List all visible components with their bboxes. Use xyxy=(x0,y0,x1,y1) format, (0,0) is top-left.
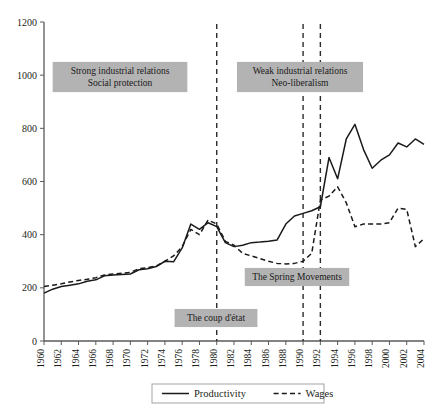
legend-label-productivity: Productivity xyxy=(194,388,247,399)
y-tick-label: 0 xyxy=(32,336,37,347)
line-chart: 0200400600800100012001960196219641966196… xyxy=(0,0,435,414)
y-tick-label: 400 xyxy=(22,229,37,240)
x-tick-label: 1986 xyxy=(261,349,271,368)
x-tick-label: 1970 xyxy=(122,349,132,368)
series-line-productivity xyxy=(44,124,424,293)
annotation-line: Strong industrial relations xyxy=(71,66,170,76)
x-tick-label: 1990 xyxy=(295,349,305,368)
x-tick-label: 1978 xyxy=(191,349,201,368)
x-tick-label: 1984 xyxy=(243,349,253,368)
annotation-coup: The coup d'état xyxy=(175,309,258,327)
y-tick-label: 200 xyxy=(22,282,37,293)
annotation-spring: The Spring Movements xyxy=(245,268,349,286)
annotation-line: Weak industrial relations xyxy=(253,66,348,76)
x-tick-label: 1964 xyxy=(71,349,81,368)
x-tick-label: 1960 xyxy=(36,349,46,368)
annotation-line: The Spring Movements xyxy=(252,272,342,282)
annotation-line: The coup d'état xyxy=(187,313,246,323)
x-tick-label: 1968 xyxy=(105,349,115,368)
x-tick-label: 1962 xyxy=(53,349,63,368)
y-tick-label: 600 xyxy=(22,176,37,187)
annotation-line: Social protection xyxy=(88,78,153,88)
chart-container: 0200400600800100012001960196219641966196… xyxy=(0,0,435,414)
y-tick-label: 800 xyxy=(22,123,37,134)
annotation-right-era: Weak industrial relationsNeo-liberalism xyxy=(237,62,363,92)
x-tick-label: 1980 xyxy=(209,349,219,368)
x-tick-label: 2000 xyxy=(381,349,391,368)
x-tick-label: 1972 xyxy=(140,349,150,368)
x-tick-label: 2004 xyxy=(416,349,426,368)
x-tick-label: 1976 xyxy=(174,349,184,368)
annotation-left-era: Strong industrial relationsSocial protec… xyxy=(53,62,188,92)
x-tick-label: 1974 xyxy=(157,349,167,368)
x-tick-label: 2002 xyxy=(399,349,409,368)
annotation-line: Neo-liberalism xyxy=(272,78,330,88)
x-tick-label: 1982 xyxy=(226,349,236,368)
x-tick-label: 1996 xyxy=(347,349,357,368)
legend: ProductivityWages xyxy=(152,384,333,403)
x-tick-label: 1994 xyxy=(330,349,340,368)
x-tick-label: 1966 xyxy=(88,349,98,368)
y-tick-label: 1200 xyxy=(17,17,37,28)
x-tick-label: 1988 xyxy=(278,349,288,368)
legend-label-wages: Wages xyxy=(306,388,334,399)
x-tick-label: 1992 xyxy=(312,349,322,368)
y-tick-label: 1000 xyxy=(17,70,37,81)
x-tick-label: 1998 xyxy=(364,349,374,368)
series-line-wages xyxy=(44,187,424,287)
